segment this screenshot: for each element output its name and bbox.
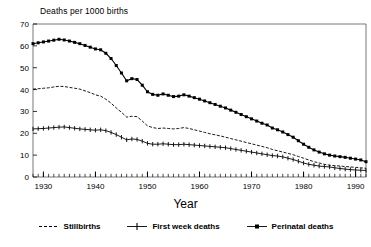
series-first-week-deaths xyxy=(33,125,366,173)
y-tick-label: 40 xyxy=(20,86,29,95)
y-tick-label: 0 xyxy=(25,173,30,182)
chart-plot-area: 0102030405060701930194019501960197019801… xyxy=(0,0,371,200)
plus-marker-icon xyxy=(126,222,148,231)
legend-item-first-week-deaths: First week deaths xyxy=(126,222,219,231)
x-axis-title: Year xyxy=(0,197,371,211)
dashed-line-icon xyxy=(38,222,60,231)
x-tick-label: 1950 xyxy=(139,182,157,191)
y-tick-label: 60 xyxy=(20,42,29,51)
x-tick-label: 1930 xyxy=(35,182,53,191)
legend-label-first-week-deaths: First week deaths xyxy=(152,222,219,231)
y-tick-label: 50 xyxy=(20,64,29,73)
x-tick-label: 1940 xyxy=(87,182,105,191)
square-marker-icon xyxy=(246,222,268,231)
x-tick-label: 1980 xyxy=(295,182,313,191)
y-tick-label: 30 xyxy=(20,107,29,116)
y-axis-title: Deaths per 1000 births xyxy=(40,6,128,16)
y-tick-label: 20 xyxy=(20,129,29,138)
x-tick-label: 1970 xyxy=(243,182,261,191)
y-tick-label: 10 xyxy=(20,151,29,160)
chart-figure: Deaths per 1000 births 01020304050607019… xyxy=(0,0,371,247)
chart-legend: Stillbirths First week deaths Perinatal … xyxy=(0,222,371,231)
legend-item-perinatal-deaths: Perinatal deaths xyxy=(246,222,334,231)
legend-label-stillbirths: Stillbirths xyxy=(64,222,101,231)
legend-label-perinatal-deaths: Perinatal deaths xyxy=(272,222,334,231)
legend-item-stillbirths: Stillbirths xyxy=(38,222,101,231)
x-tick-label: 1960 xyxy=(191,182,209,191)
y-tick-label: 70 xyxy=(20,20,29,29)
x-tick-label: 1990 xyxy=(347,182,365,191)
